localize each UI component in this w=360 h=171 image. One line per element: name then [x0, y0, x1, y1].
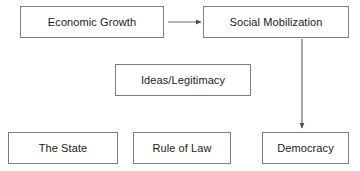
node-social-mobilization[interactable]: Social Mobilization — [203, 6, 349, 38]
node-label: Rule of Law — [152, 142, 211, 153]
node-label: The State — [39, 142, 88, 153]
node-economic-growth[interactable]: Economic Growth — [20, 6, 164, 38]
node-label: Ideas/Legitimacy — [141, 74, 225, 85]
node-label: Democracy — [277, 142, 334, 153]
diagram-canvas: Economic Growth Social Mobilization Idea… — [0, 0, 360, 171]
node-ideas-legitimacy[interactable]: Ideas/Legitimacy — [115, 64, 251, 96]
node-democracy[interactable]: Democracy — [262, 132, 349, 164]
node-rule-of-law[interactable]: Rule of Law — [133, 132, 231, 164]
node-the-state[interactable]: The State — [8, 132, 118, 164]
node-label: Social Mobilization — [230, 16, 323, 27]
node-label: Economic Growth — [48, 16, 136, 27]
